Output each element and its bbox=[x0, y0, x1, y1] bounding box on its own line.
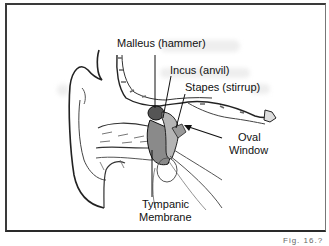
label-tympanic-line2: Membrane bbox=[139, 211, 192, 223]
label-oval-window-line2: Window bbox=[229, 144, 268, 156]
label-tympanic-line1: Tympanic bbox=[142, 198, 189, 210]
figure-caption: Fig. 16.? bbox=[283, 236, 323, 245]
label-malleus: Malleus (hammer) bbox=[117, 37, 206, 49]
label-incus: Incus (anvil) bbox=[170, 64, 229, 76]
label-oval-window-line1: Oval bbox=[238, 131, 261, 143]
label-stapes: Stapes (stirrup) bbox=[185, 81, 260, 93]
